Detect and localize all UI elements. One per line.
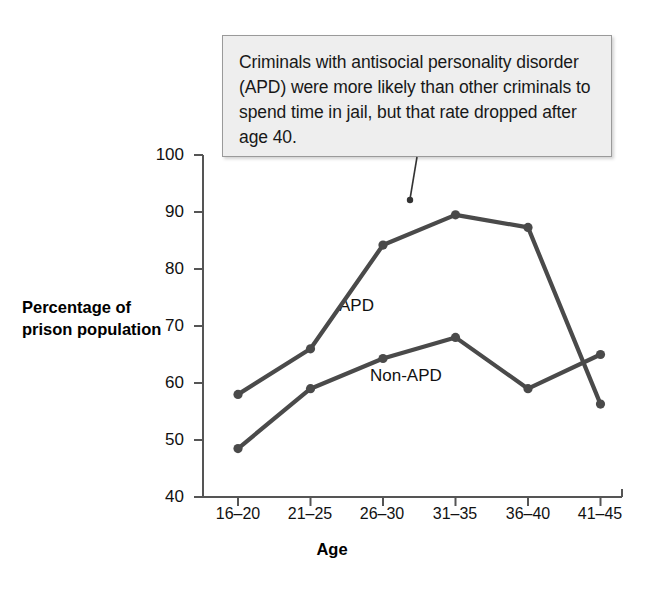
- data-point: [596, 399, 605, 408]
- data-point: [306, 344, 315, 353]
- polyline-apd: [238, 215, 601, 404]
- data-point: [596, 350, 605, 359]
- data-point: [378, 240, 387, 249]
- x-axis-ticks: [238, 497, 601, 506]
- chart-figure: Criminals with antisocial personality di…: [0, 0, 664, 592]
- data-point: [523, 384, 532, 393]
- series-line-non-apd: [233, 333, 605, 453]
- data-point: [233, 444, 242, 453]
- annotation-leader-dot: [407, 197, 413, 203]
- data-point: [451, 333, 460, 342]
- plot-area: [0, 0, 664, 592]
- polyline-non-apd: [238, 337, 601, 448]
- data-point: [233, 390, 242, 399]
- annotation-leader-line: [410, 157, 417, 199]
- data-point: [451, 210, 460, 219]
- data-point: [306, 384, 315, 393]
- data-point: [523, 223, 532, 232]
- data-point: [378, 354, 387, 363]
- y-axis-ticks: [194, 155, 203, 497]
